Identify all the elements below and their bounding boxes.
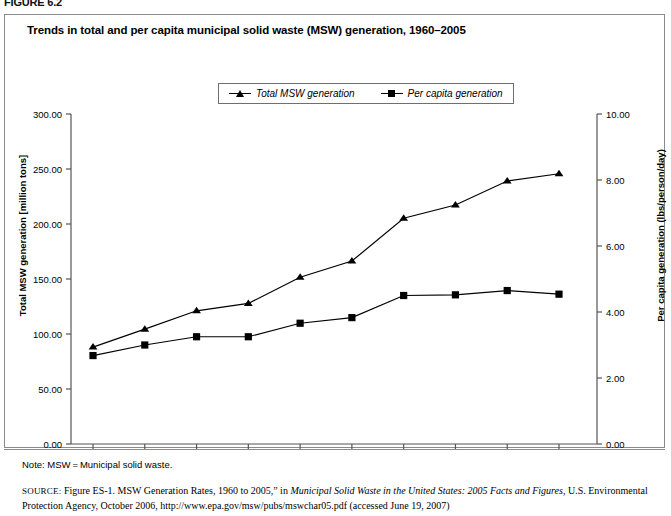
y-axis-left-tick-label: 100.00 xyxy=(33,329,62,340)
data-point-square-marker-icon[interactable] xyxy=(555,291,562,298)
data-point-square-marker-icon[interactable] xyxy=(400,292,407,299)
y-axis-left-tick-label: 150.00 xyxy=(33,274,62,285)
plot-area: 0.0050.00100.00150.00200.00250.00300.000… xyxy=(5,15,666,449)
y-axis-right-tick-label: 0.00 xyxy=(606,439,625,450)
data-point-square-marker-icon[interactable] xyxy=(245,333,252,340)
data-point-square-marker-icon[interactable] xyxy=(452,291,459,298)
y-axis-right-tick-label: 8.00 xyxy=(606,175,625,186)
y-axis-left-tick-label: 250.00 xyxy=(33,164,62,175)
y-axis-right-tick-label: 10.00 xyxy=(606,109,630,120)
figure-panel: Trends in total and per capita municipal… xyxy=(4,14,665,448)
data-point-triangle-marker-icon[interactable] xyxy=(555,170,564,177)
series-line-total-msw xyxy=(93,174,559,347)
source-label: SOURCE: xyxy=(22,486,61,496)
figure-number-label: FIGURE 6.2 xyxy=(4,0,62,10)
source-text-italic: Municipal Solid Waste in the United Stat… xyxy=(290,485,563,496)
y-axis-right-tick-label: 6.00 xyxy=(606,241,625,252)
data-point-triangle-marker-icon[interactable] xyxy=(244,299,253,306)
y-axis-left-tick-label: 300.00 xyxy=(33,109,62,120)
data-point-square-marker-icon[interactable] xyxy=(348,314,355,321)
data-point-square-marker-icon[interactable] xyxy=(504,287,511,294)
y-axis-left-tick-label: 50.00 xyxy=(38,384,62,395)
panel-bottom-divider xyxy=(4,449,665,450)
data-point-square-marker-icon[interactable] xyxy=(193,333,200,340)
data-point-square-marker-icon[interactable] xyxy=(297,320,304,327)
data-point-square-marker-icon[interactable] xyxy=(89,352,96,359)
y-axis-right-tick-label: 4.00 xyxy=(606,307,625,318)
chart-canvas: 0.0050.00100.00150.00200.00250.00300.000… xyxy=(5,15,666,449)
figure-note: Note: MSW = Municipal solid waste. xyxy=(22,459,172,470)
y-axis-right-tick-label: 2.00 xyxy=(606,373,625,384)
data-point-square-marker-icon[interactable] xyxy=(141,341,148,348)
figure-source: SOURCE: Figure ES-1. MSW Generation Rate… xyxy=(22,484,652,512)
source-text-part1: Figure ES-1. MSW Generation Rates, 1960 … xyxy=(61,485,290,496)
y-axis-left-tick-label: 200.00 xyxy=(33,219,62,230)
y-axis-left-tick-label: 0.00 xyxy=(44,439,63,450)
